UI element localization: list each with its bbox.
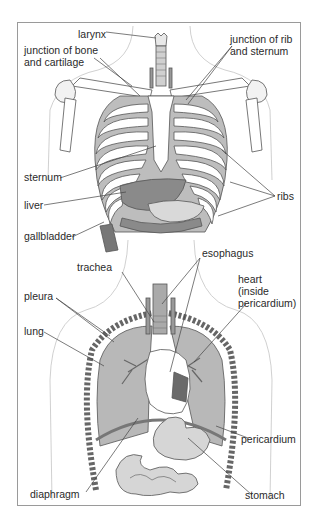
label-pleura: pleura xyxy=(24,290,53,302)
label-trachea: trachea xyxy=(77,261,112,273)
label-liver: liver xyxy=(24,199,43,211)
label-pericardium: pericardium xyxy=(241,433,296,445)
label-heart: heart (inside pericardium) xyxy=(238,273,296,309)
label-sternum: sternum xyxy=(24,171,62,183)
anatomy-illustration xyxy=(0,0,315,528)
label-larynx: larynx xyxy=(78,28,106,40)
label-junction-bone-cartilage: junction of bone and cartilage xyxy=(24,44,98,68)
label-diaphragm: diaphragm xyxy=(30,488,80,500)
larynx-shape xyxy=(155,33,167,46)
label-stomach: stomach xyxy=(245,489,285,501)
intestines-shape xyxy=(116,455,198,496)
trachea-shape xyxy=(153,284,167,334)
left-lung-shape xyxy=(97,326,152,446)
label-ribs: ribs xyxy=(277,190,294,202)
label-esophagus: esophagus xyxy=(202,247,253,259)
label-lung: lung xyxy=(24,325,44,337)
label-gallbladder: gallbladder xyxy=(24,230,75,242)
label-junction-rib-sternum: junction of rib and sternum xyxy=(230,33,292,57)
